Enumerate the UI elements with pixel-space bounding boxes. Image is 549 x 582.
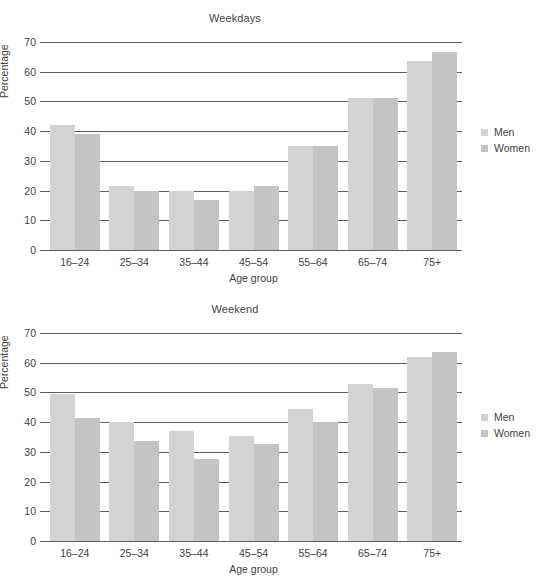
gridline [45, 161, 462, 162]
bar-women-6 [432, 52, 457, 250]
legend-swatch-icon [481, 430, 488, 437]
x-axis-tick-label: 25–34 [105, 547, 165, 559]
bar-women-5 [373, 388, 398, 541]
y-axis-tick [40, 482, 45, 483]
bar-women-6 [432, 352, 457, 541]
y-axis-tick [40, 161, 45, 162]
bar-men-3 [229, 436, 254, 541]
x-axis-tick-label: 25–34 [105, 256, 165, 268]
legend-item-women[interactable]: Women [481, 140, 530, 156]
x-axis-tick-label: 45–54 [224, 256, 284, 268]
legend-label: Men [494, 126, 514, 138]
y-axis-tick-label: 10 [0, 214, 36, 226]
legend-label: Women [494, 142, 530, 154]
bar-women-0 [75, 418, 100, 541]
legend-item-women[interactable]: Women [481, 425, 530, 441]
y-axis-tick-label: 40 [0, 125, 36, 137]
x-axis-tick-label: 35–44 [164, 547, 224, 559]
y-axis-tick [40, 392, 45, 393]
y-axis-tick-label: 20 [0, 185, 36, 197]
bar-women-0 [75, 134, 100, 250]
bar-men-3 [229, 191, 254, 250]
y-axis-tick [40, 220, 45, 221]
y-axis-tick-label: 70 [0, 36, 36, 48]
x-axis-tick-label: 75+ [402, 256, 462, 268]
y-axis-tick [40, 452, 45, 453]
y-axis-tick [40, 101, 45, 102]
bar-men-4 [288, 409, 313, 541]
legend-item-men[interactable]: Men [481, 409, 530, 425]
gridline [45, 422, 462, 423]
bar-men-5 [348, 98, 373, 250]
bar-women-3 [254, 444, 279, 541]
chart-panel-weekend: Weekend Percentage MenWomen Age group 01… [0, 291, 549, 582]
legend-label: Women [494, 427, 530, 439]
bar-women-4 [313, 422, 338, 541]
x-axis-tick-label: 45–54 [224, 547, 284, 559]
gridline [45, 131, 462, 132]
bar-men-6 [407, 357, 432, 541]
gridline [45, 333, 462, 334]
y-axis-tick-label: 70 [0, 327, 36, 339]
y-axis-tick-label: 30 [0, 155, 36, 167]
y-axis-tick [40, 363, 45, 364]
x-axis-tick-label: 16–24 [45, 256, 105, 268]
x-axis-tick-label: 35–44 [164, 256, 224, 268]
y-axis-tick-label: 0 [0, 244, 36, 256]
y-axis-tick-label: 60 [0, 66, 36, 78]
gridline [45, 363, 462, 364]
gridline [45, 42, 462, 43]
x-axis-label: Age group [45, 563, 462, 575]
x-axis-tick-label: 65–74 [343, 256, 403, 268]
x-axis-line [45, 250, 462, 251]
plot-area-weekend [45, 333, 462, 541]
legend-item-men[interactable]: Men [481, 124, 530, 140]
y-axis-tick-label: 60 [0, 357, 36, 369]
y-axis-tick-label: 20 [0, 476, 36, 488]
y-axis-tick [40, 42, 45, 43]
y-axis-tick-label: 0 [0, 535, 36, 547]
legend-label: Men [494, 411, 514, 423]
bar-men-1 [109, 186, 134, 250]
bar-men-6 [407, 61, 432, 250]
bar-men-0 [50, 394, 75, 541]
x-axis-tick-label: 75+ [402, 547, 462, 559]
chart-panel-weekdays: Weekdays Percentage MenWomen Age group 0… [0, 0, 549, 291]
bar-men-0 [50, 125, 75, 250]
chart-title: Weekdays [0, 12, 470, 24]
bar-men-4 [288, 146, 313, 250]
y-axis-tick-label: 10 [0, 505, 36, 517]
x-axis-tick-label: 55–64 [283, 256, 343, 268]
x-axis-tick-label: 65–74 [343, 547, 403, 559]
chart-title: Weekend [0, 303, 470, 315]
x-axis-tick-label: 16–24 [45, 547, 105, 559]
bar-women-2 [194, 200, 219, 251]
bar-women-4 [313, 146, 338, 250]
y-axis-tick [40, 422, 45, 423]
bar-men-2 [169, 431, 194, 541]
y-axis-tick [40, 191, 45, 192]
y-axis-tick-label: 50 [0, 95, 36, 107]
x-axis-line [45, 541, 462, 542]
legend-swatch-icon [481, 145, 488, 152]
x-axis-label: Age group [45, 272, 462, 284]
y-axis-tick [40, 333, 45, 334]
bar-men-2 [169, 191, 194, 250]
y-axis-tick [40, 511, 45, 512]
legend-swatch-icon [481, 129, 488, 136]
plot-area-weekdays [45, 42, 462, 250]
bar-women-1 [134, 441, 159, 541]
y-axis-tick [40, 72, 45, 73]
x-axis-tick-label: 55–64 [283, 547, 343, 559]
legend-swatch-icon [481, 414, 488, 421]
bar-women-1 [134, 191, 159, 250]
y-axis-tick-label: 30 [0, 446, 36, 458]
bar-women-3 [254, 186, 279, 250]
legend-weekdays: MenWomen [481, 124, 530, 156]
gridline [45, 392, 462, 393]
y-axis-tick-label: 40 [0, 416, 36, 428]
legend-weekend: MenWomen [481, 409, 530, 441]
gridline [45, 101, 462, 102]
gridline [45, 72, 462, 73]
bar-men-1 [109, 422, 134, 541]
